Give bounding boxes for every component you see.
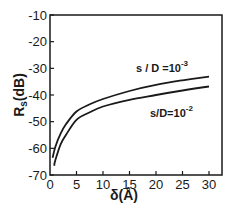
- y-tick-label: -60: [28, 141, 47, 156]
- y-tick-label: -30: [28, 61, 47, 76]
- x-tick-label: 10: [96, 177, 110, 192]
- y-tick-label: -40: [28, 88, 47, 103]
- series-line-1e-2: [54, 87, 209, 166]
- x-tick-label: 25: [175, 177, 189, 192]
- series-label-1e-2: s/D=10-2: [150, 104, 193, 119]
- x-axis-title: δ(Å): [110, 187, 138, 203]
- plot-frame: [50, 15, 222, 175]
- y-tick-label: -70: [28, 168, 47, 183]
- x-tick-label: 20: [149, 177, 163, 192]
- x-tick-label: 30: [202, 177, 216, 192]
- series-lines: [53, 77, 209, 166]
- y-axis-title: Rs(dB): [11, 73, 29, 117]
- series-label-1e-3: s / D =10-3: [136, 59, 189, 74]
- y-tick-label: -10: [28, 8, 47, 23]
- y-tick-label: -20: [28, 34, 47, 49]
- y-tick-label: -50: [28, 114, 47, 129]
- chart: -10-20-30-40-50-60-70 051015202530 δ(Å) …: [0, 0, 236, 215]
- svg-text:Rs(dB): Rs(dB): [11, 73, 29, 117]
- y-axis-title-main: R: [11, 107, 27, 117]
- y-axis-title-unit: (dB): [11, 73, 27, 101]
- x-tick-label: 5: [73, 177, 80, 192]
- x-tick-label: 0: [46, 177, 53, 192]
